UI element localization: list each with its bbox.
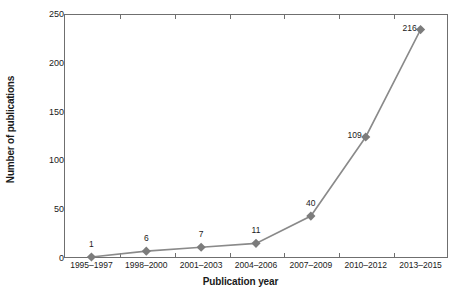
x-axis-tick-mark: [284, 253, 285, 257]
y-axis-tick-label: 150: [38, 107, 64, 116]
x-axis-tick-label: 2013–2015: [399, 260, 442, 270]
data-point-value-label: 40: [306, 199, 315, 208]
data-point-value-label: 216: [402, 24, 416, 33]
x-axis-tick-label: 1998–2000: [125, 260, 168, 270]
x-axis-tick-mark: [175, 253, 176, 257]
y-axis-tick-label: 250: [38, 10, 64, 19]
x-axis-tick-mark: [120, 253, 121, 257]
data-point-value-label: 1: [89, 240, 94, 249]
plot-area: [64, 14, 448, 258]
publications-line-chart: Number of publications 050100150200250 1…: [0, 0, 459, 296]
x-axis-tick-mark-top: [230, 15, 231, 19]
data-point-value-label: 7: [199, 230, 204, 239]
y-axis-tick-label: 0: [38, 254, 64, 263]
data-point-value-label: 6: [144, 234, 149, 243]
data-point-value-label: 11: [252, 226, 261, 235]
x-axis-tick-mark-top: [284, 15, 285, 19]
data-point-value-label: 109: [348, 131, 362, 140]
y-axis-title-text: Number of publications: [6, 75, 17, 182]
y-axis-title: Number of publications: [2, 0, 20, 258]
x-axis-tick-mark-top: [339, 15, 340, 19]
x-axis-tick-mark: [394, 253, 395, 257]
x-axis-tick-mark: [230, 253, 231, 257]
x-axis-tick-label: 2001–2003: [180, 260, 223, 270]
x-axis-tick-mark: [339, 253, 340, 257]
x-axis-tick-labels: 1995–19971998–20002001–20032004–20062007…: [64, 260, 448, 274]
x-axis-tick-label: 2007–2009: [290, 260, 333, 270]
x-axis-tick-mark-top: [394, 15, 395, 19]
y-axis-tick-label: 50: [38, 205, 64, 214]
y-axis-tick-label: 200: [38, 58, 64, 67]
x-axis-tick-mark-top: [175, 15, 176, 19]
y-axis-tick-label: 100: [38, 156, 64, 165]
x-axis-tick-label: 2010–2012: [344, 260, 387, 270]
x-axis-tick-mark-top: [120, 15, 121, 19]
x-axis-tick-label: 2004–2006: [235, 260, 278, 270]
x-axis-title: Publication year: [33, 276, 448, 287]
x-axis-tick-label: 1995–1997: [70, 260, 113, 270]
y-axis-ticks: 050100150200250: [30, 0, 64, 296]
